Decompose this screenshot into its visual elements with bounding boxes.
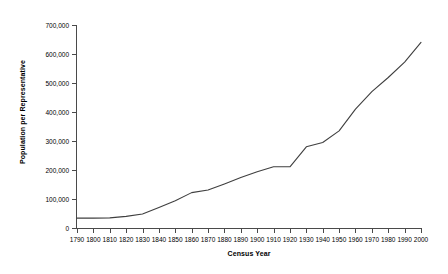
x-tick: [323, 229, 324, 233]
x-tick: [143, 229, 144, 233]
x-tick: [224, 229, 225, 233]
x-tick: [110, 229, 111, 233]
x-tick: [388, 229, 389, 233]
y-tick-label-text: 100,000: [0, 196, 69, 203]
y-tick-label-text: 0: [0, 225, 69, 232]
y-tick-label-text: 600,000: [0, 51, 69, 58]
y-tick-label: 100,000: [0, 196, 69, 203]
x-tick-label-text: 2000: [406, 236, 436, 244]
y-tick-label: 200,000: [0, 167, 69, 174]
x-tick: [159, 229, 160, 233]
y-tick: [72, 199, 76, 200]
x-tick: [192, 229, 193, 233]
x-tick: [241, 229, 242, 233]
x-tick: [421, 229, 422, 233]
y-tick: [72, 54, 76, 55]
y-tick: [72, 228, 76, 229]
x-tick: [93, 229, 94, 233]
y-tick: [72, 112, 76, 113]
y-tick: [72, 141, 76, 142]
x-tick: [208, 229, 209, 233]
chart-container: Population per Representative 0100,00020…: [0, 0, 448, 274]
x-tick: [274, 229, 275, 233]
x-tick: [126, 229, 127, 233]
x-tick: [355, 229, 356, 233]
x-tick: [306, 229, 307, 233]
y-axis-line: [76, 25, 77, 229]
x-axis-title: Census Year: [77, 250, 421, 257]
series-line-population-per-representative: [77, 42, 421, 218]
x-tick: [405, 229, 406, 233]
y-tick: [72, 170, 76, 171]
y-tick: [72, 25, 76, 26]
x-tick: [339, 229, 340, 233]
x-tick-label: 2000: [406, 236, 436, 244]
x-tick: [257, 229, 258, 233]
y-tick-label-text: 500,000: [0, 80, 69, 87]
y-tick-label-text: 400,000: [0, 109, 69, 116]
y-tick-label: 500,000: [0, 80, 69, 87]
x-tick: [175, 229, 176, 233]
y-tick-label-text: 700,000: [0, 22, 69, 29]
x-tick: [372, 229, 373, 233]
y-tick-label-text: 200,000: [0, 167, 69, 174]
x-axis-line: [76, 228, 422, 229]
y-tick-label: 400,000: [0, 109, 69, 116]
y-tick-label: 0: [0, 225, 69, 232]
y-tick-label: 300,000: [0, 138, 69, 145]
x-tick: [290, 229, 291, 233]
y-tick-label: 600,000: [0, 51, 69, 58]
x-tick: [77, 229, 78, 233]
y-tick-label-text: 300,000: [0, 138, 69, 145]
y-tick-label: 700,000: [0, 22, 69, 29]
y-tick: [72, 83, 76, 84]
